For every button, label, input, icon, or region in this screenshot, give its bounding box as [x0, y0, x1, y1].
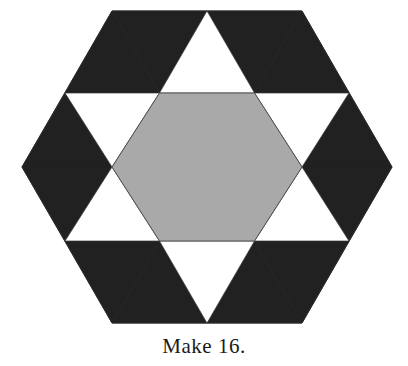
- page-root: Make 16.: [0, 0, 408, 366]
- quilt-block-figure: [0, 0, 408, 332]
- block-diagram-svg: [0, 0, 408, 332]
- caption-text: Make 16.: [0, 333, 408, 359]
